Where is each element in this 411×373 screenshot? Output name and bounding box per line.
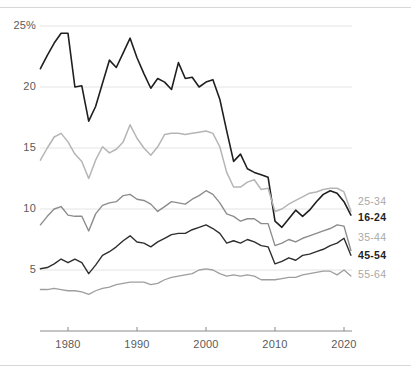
x-tick-label: 2020 — [324, 338, 364, 350]
y-tick-label: 25% — [2, 19, 36, 31]
series-line-25-34 — [40, 125, 351, 212]
x-tick-label: 2010 — [255, 338, 295, 350]
legend-item-35-44[interactable]: 35-44 — [358, 231, 386, 243]
y-tick-label: 15 — [2, 141, 36, 153]
y-tick-label: 5 — [2, 263, 36, 275]
chart-svg — [0, 0, 411, 373]
series-line-35-44 — [40, 191, 351, 251]
legend-item-45-54[interactable]: 45-54 — [358, 249, 386, 261]
chart-figure: 25%2015105 19801990200020102020 25-3416-… — [0, 0, 411, 373]
series-group — [40, 33, 351, 294]
x-axis-group — [40, 327, 352, 331]
y-tick-label: 10 — [2, 202, 36, 214]
legend-item-25-34[interactable]: 25-34 — [358, 195, 386, 207]
y-tick-label: 20 — [2, 80, 36, 92]
legend-item-16-24[interactable]: 16-24 — [358, 211, 386, 223]
series-line-16-24 — [40, 33, 351, 227]
series-line-45-54 — [40, 225, 351, 274]
x-tick-label: 1990 — [117, 338, 157, 350]
legend-item-55-64[interactable]: 55-64 — [358, 268, 386, 280]
x-tick-label: 1980 — [48, 338, 88, 350]
gridlines-group — [40, 26, 352, 270]
series-line-55-64 — [40, 269, 351, 295]
x-tick-label: 2000 — [186, 338, 226, 350]
line-chart-plot — [0, 0, 411, 373]
